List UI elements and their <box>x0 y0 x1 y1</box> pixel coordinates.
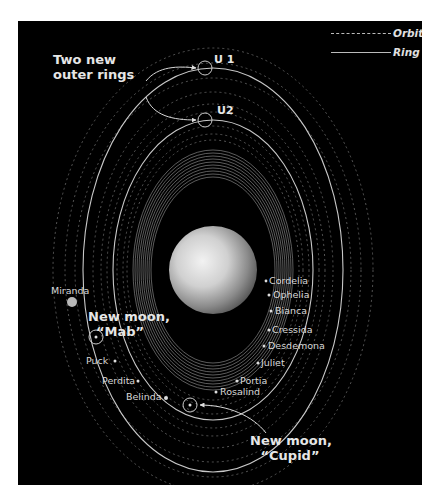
callout-cupid: New moon, “Cupid” <box>250 433 330 463</box>
callout-new-rings-line2: outer rings <box>53 67 134 82</box>
legend-orbit-swatch <box>331 33 391 34</box>
uranus-ring-diagram: Orbit Ring Two new outer rings U 1 U2 Ne… <box>18 21 422 485</box>
moon-label-miranda: Miranda <box>51 286 89 296</box>
miranda-body <box>67 297 77 307</box>
callout-cupid-line1: New moon, <box>250 433 330 448</box>
moon-label-perdita: Perdita <box>102 376 135 386</box>
callout-new-rings: Two new outer rings <box>53 52 134 82</box>
moon-label-belinda: Belinda <box>126 392 162 402</box>
moon-label-cordelia: Cordelia <box>269 276 308 286</box>
moon-label-puck: Puck <box>86 356 108 366</box>
legend-ring-label: Ring <box>393 47 420 58</box>
ring-u2-label: U2 <box>217 105 234 116</box>
callout-mab-line2: “Mab” <box>88 324 170 339</box>
callout-new-rings-line1: Two new <box>53 52 134 67</box>
moon-label-cressida: Cressida <box>272 325 313 335</box>
legend-orbit-label: Orbit <box>393 28 422 39</box>
moon-label-rosalind: Rosalind <box>220 387 260 397</box>
callout-cupid-line2: “Cupid” <box>250 448 330 463</box>
ring-u1-label: U 1 <box>214 54 234 65</box>
callout-mab-line1: New moon, <box>88 309 170 324</box>
orbit-rings-graphic <box>18 21 422 485</box>
moon-label-portia: Portia <box>240 376 267 386</box>
uranus-planet <box>169 226 257 314</box>
callout-mab: New moon, “Mab” <box>88 309 170 339</box>
moon-label-juliet: Juliet <box>261 358 285 368</box>
moon-label-ophelia: Ophelia <box>273 290 309 300</box>
legend-ring-swatch <box>331 52 391 53</box>
moon-label-bianca: Bianca <box>275 306 307 316</box>
moon-label-desdemona: Desdemona <box>268 341 325 351</box>
arrow-to-cupid <box>200 405 266 433</box>
